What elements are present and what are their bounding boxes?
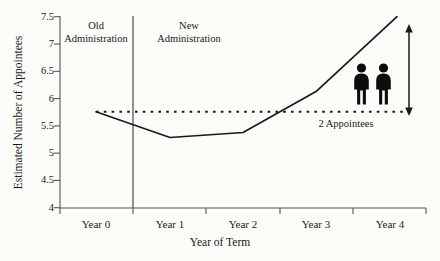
new-administration-label: New Administration — [148, 19, 230, 45]
x-tick-label-year-4: Year 4 — [350, 219, 430, 230]
old-administration-line-2: Administration — [56, 32, 136, 45]
person-icon — [375, 63, 392, 105]
x-axis-title: Year of Term — [0, 237, 440, 249]
y-axis-title: Estimated Number of Appointees — [12, 17, 28, 208]
new-administration-line-1: New — [148, 19, 230, 32]
x-tick-label-year-3: Year 3 — [276, 219, 356, 230]
new-administration-line-2: Administration — [148, 32, 230, 45]
chart-figure: 7.5 7 6.5 6 5.5 5 4.5 4 Year 0 Year 1 Ye… — [0, 0, 440, 261]
person-icon — [353, 63, 370, 105]
appointees-annotation-label: 2 Appointees — [300, 119, 392, 130]
old-administration-label: Old Administration — [56, 19, 136, 45]
old-administration-line-1: Old — [56, 19, 136, 32]
x-tick-label-year-0: Year 0 — [56, 219, 136, 230]
x-tick-label-year-2: Year 2 — [203, 219, 283, 230]
x-tick-label-year-1: Year 1 — [130, 219, 210, 230]
y-axis-ticks — [54, 17, 60, 208]
appointees-gap-arrow — [405, 24, 413, 116]
x-axis-ticks — [60, 208, 426, 214]
